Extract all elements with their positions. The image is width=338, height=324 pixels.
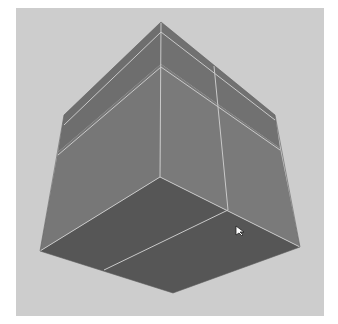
3d-viewport[interactable] (16, 8, 324, 316)
cube-model[interactable] (16, 8, 324, 316)
